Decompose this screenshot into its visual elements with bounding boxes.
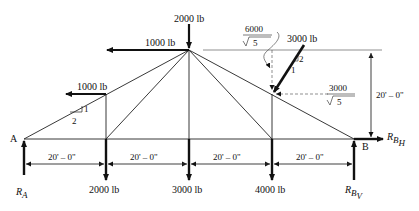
load-bottom-2-label: 3000 lb <box>172 184 202 195</box>
height-dimension-label: 20' – 0" <box>376 90 404 100</box>
span-1-label: 20' – 0" <box>48 152 76 162</box>
load-inclined-label: 3000 lb <box>287 33 317 44</box>
reaction-B-horizontal-label: RBH <box>386 131 406 148</box>
load-left-horizontal-label: 1000 lb <box>77 81 107 92</box>
reaction-B-vertical-label: RBV <box>344 184 364 201</box>
support-B-label: B <box>362 141 369 152</box>
diagonal-right <box>189 50 272 139</box>
load-inclined-arrow <box>274 45 304 92</box>
span-3-label: 20' – 0" <box>213 152 241 162</box>
diagonal-left <box>106 50 189 139</box>
span-4-label: 20' – 0" <box>296 152 324 162</box>
load-top-vertical-label: 2000 lb <box>174 13 204 24</box>
slope-left-run: 2 <box>72 116 77 126</box>
slope-left-rise: 1 <box>84 104 89 114</box>
span-2-label: 20' – 0" <box>130 152 158 162</box>
truss-diagram: 2000 lb 1000 lb 1000 lb 1 2 20' – 0" 300… <box>0 0 419 211</box>
component-horizontal-numerator: 3000 <box>329 83 348 93</box>
support-A-label: A <box>10 133 18 144</box>
load-bottom-1-label: 2000 lb <box>89 184 119 195</box>
load-top-horizontal-label: 1000 lb <box>145 37 175 48</box>
load-bottom-3-label: 4000 lb <box>255 184 285 195</box>
slope-inclined-run: 1 <box>291 65 296 75</box>
slope-inclined-rise: 2 <box>299 54 304 64</box>
reaction-A-label: RA <box>15 186 28 200</box>
top-chord-right <box>189 50 354 139</box>
component-vertical-numerator: 6000 <box>245 24 264 34</box>
component-vertical-denominator: 5 <box>253 38 258 48</box>
top-chord-left <box>24 50 189 139</box>
component-horizontal-denominator: 5 <box>337 97 342 107</box>
